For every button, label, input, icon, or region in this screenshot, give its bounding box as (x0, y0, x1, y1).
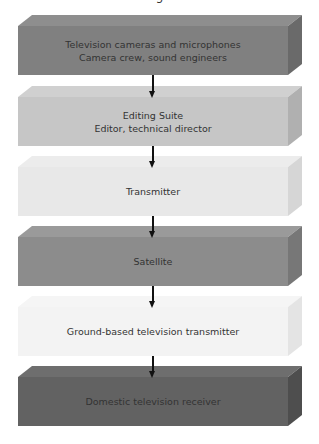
stage-roles: Editor, technical director (94, 122, 211, 135)
arrow-down-icon (150, 356, 155, 378)
stage-box-transmitter: Transmitter (18, 156, 302, 216)
stage-title: Television cameras and microphones (65, 38, 240, 51)
stage-title: Editing Suite (123, 109, 183, 122)
box-top-face (18, 296, 302, 307)
stage-title: Satellite (134, 255, 173, 268)
arrow-down-icon (150, 146, 155, 168)
clipped-title-fragment: g (0, 0, 319, 3)
box-front-face: Editing Suite Editor, technical director (18, 97, 288, 146)
stage-box-cameras: Television cameras and microphones Camer… (18, 15, 302, 75)
stage-box-editing-suite: Editing Suite Editor, technical director (18, 86, 302, 146)
box-front-face: Television cameras and microphones Camer… (18, 26, 288, 75)
box-top-face (18, 156, 302, 167)
box-front-face: Satellite (18, 237, 288, 286)
stage-title: Ground-based television transmitter (67, 325, 239, 338)
stage-box-domestic-receiver: Domestic television receiver (18, 366, 302, 426)
arrow-down-icon (150, 216, 155, 238)
box-top-face (18, 226, 302, 237)
box-top-face (18, 86, 302, 97)
stage-roles: Camera crew, sound engineers (79, 51, 227, 64)
box-front-face: Domestic television receiver (18, 377, 288, 426)
box-top-face (18, 15, 302, 26)
stage-title: Domestic television receiver (85, 395, 220, 408)
stage-box-satellite: Satellite (18, 226, 302, 286)
stage-box-ground-transmitter: Ground-based television transmitter (18, 296, 302, 356)
box-front-face: Transmitter (18, 167, 288, 216)
box-top-face (18, 366, 302, 377)
box-front-face: Ground-based television transmitter (18, 307, 288, 356)
stage-title: Transmitter (126, 185, 180, 198)
arrow-down-icon (150, 286, 155, 308)
arrow-down-icon (150, 75, 155, 98)
